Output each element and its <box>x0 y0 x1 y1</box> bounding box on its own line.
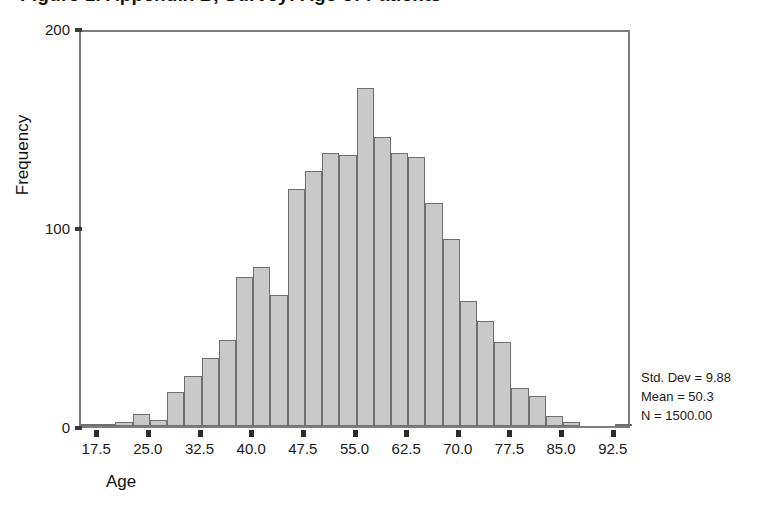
x-axis-title: Age <box>106 472 136 492</box>
y-tick-label: 100 <box>45 220 70 237</box>
histogram-bar <box>81 424 98 426</box>
x-tick-label: 92.5 <box>573 440 653 457</box>
x-tick-mark <box>146 430 151 437</box>
histogram-bar <box>167 392 184 426</box>
stat-n: N = 1500.00 <box>641 406 731 425</box>
histogram-bar <box>374 137 391 426</box>
histogram-bar <box>236 277 253 426</box>
y-tick-mark <box>75 426 82 430</box>
x-tick-mark <box>456 430 461 437</box>
histogram-bar <box>546 416 563 426</box>
histogram-bar <box>133 414 150 426</box>
histogram-bar <box>425 203 442 426</box>
histogram-bars <box>81 32 628 426</box>
histogram-bar <box>408 157 425 426</box>
histogram-bar <box>357 88 374 426</box>
histogram-bar <box>150 420 167 426</box>
statistics-annotation: Std. Dev = 9.88 Mean = 50.3 N = 1500.00 <box>641 368 731 425</box>
histogram-bar <box>443 239 460 426</box>
x-tick-mark <box>249 430 254 437</box>
histogram-bar <box>98 424 115 426</box>
y-tick-mark <box>75 28 82 32</box>
histogram-bar <box>184 376 201 426</box>
y-tick-label: 200 <box>45 21 70 38</box>
plot-area <box>79 30 630 428</box>
x-tick-mark <box>404 430 409 437</box>
histogram-bar <box>391 153 408 426</box>
x-tick-mark <box>353 430 358 437</box>
histogram-bar <box>219 340 236 426</box>
histogram-bar <box>494 342 511 426</box>
x-tick-mark <box>301 430 306 437</box>
x-tick-mark <box>559 430 564 437</box>
y-tick-label: 0 <box>62 419 70 436</box>
stat-mean: Mean = 50.3 <box>641 387 731 406</box>
histogram-bar <box>270 295 287 426</box>
x-tick-mark <box>94 430 99 437</box>
histogram-bar <box>115 422 132 426</box>
histogram-bar <box>615 424 632 426</box>
histogram-bar <box>563 422 580 426</box>
histogram-bar <box>529 396 546 426</box>
x-tick-mark <box>611 430 616 437</box>
stat-std-dev: Std. Dev = 9.88 <box>641 368 731 387</box>
histogram-bar <box>288 189 305 426</box>
histogram-bar <box>322 153 339 426</box>
histogram-bar <box>511 388 528 426</box>
histogram-bar <box>460 301 477 426</box>
page-title: Figure 1. Appendix B, Survey: Age of Pat… <box>20 0 441 6</box>
histogram-bar <box>305 171 322 426</box>
x-tick-mark <box>507 430 512 437</box>
histogram-bar <box>339 155 356 426</box>
histogram-bar <box>202 358 219 426</box>
x-tick-mark <box>198 430 203 437</box>
histogram-bar <box>477 321 494 426</box>
y-tick-mark <box>75 227 82 231</box>
histogram-bar <box>253 267 270 426</box>
y-axis-title: Frequency <box>13 55 33 255</box>
